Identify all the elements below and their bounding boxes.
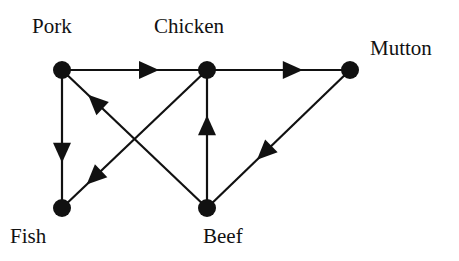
labels-layer: PorkChickenMuttonFishBeef — [10, 14, 432, 248]
arrowhead-icon — [139, 61, 159, 79]
node-mutton — [341, 61, 359, 79]
node-label-chicken: Chicken — [154, 14, 224, 38]
food-graph-diagram: PorkChickenMuttonFishBeef — [0, 0, 459, 261]
node-chicken — [198, 61, 216, 79]
node-label-pork: Pork — [32, 14, 72, 38]
node-label-fish: Fish — [10, 224, 47, 248]
edges-layer — [53, 61, 350, 208]
node-label-mutton: Mutton — [370, 36, 432, 60]
node-pork — [53, 61, 71, 79]
arrowhead-icon — [198, 115, 216, 135]
node-beef — [198, 199, 216, 217]
arrowhead-icon — [53, 143, 71, 163]
arrowhead-icon — [283, 61, 303, 79]
edge-mutton-to-beef — [207, 70, 350, 208]
node-label-beef: Beef — [203, 224, 243, 248]
node-fish — [53, 199, 71, 217]
